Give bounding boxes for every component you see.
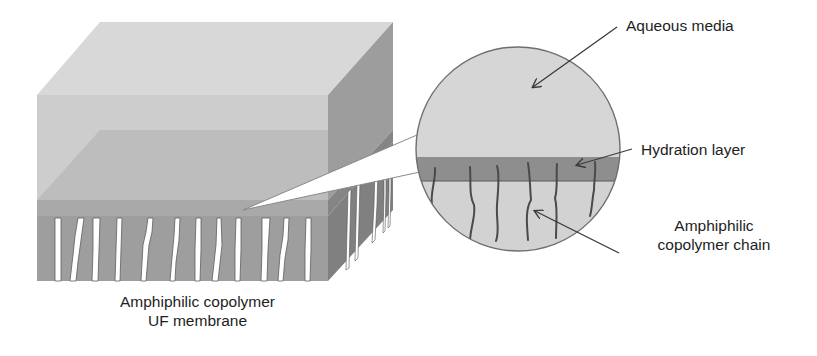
diagram-canvas: Aqueous media Hydration layer Amphiphili… [0, 0, 817, 356]
magnified-hydration-band [410, 157, 630, 181]
membrane-caption: Amphiphilic copolymer UF membrane [40, 292, 355, 330]
membrane-block [37, 22, 393, 281]
magnified-view [410, 47, 630, 261]
copolymer-chain-label: Amphiphilic copolymer chain [634, 216, 794, 254]
membrane-caption-line1: Amphiphilic copolymer [40, 292, 355, 311]
magnified-membrane-region [410, 181, 630, 261]
hydration-front-band [37, 200, 328, 216]
copolymer-chain-label-line1: Amphiphilic [634, 216, 794, 235]
hydration-layer-label: Hydration layer [641, 140, 745, 159]
aqueous-media-label: Aqueous media [626, 16, 734, 35]
membrane-caption-line2: UF membrane [40, 311, 355, 330]
copolymer-chain-label-line2: copolymer chain [634, 235, 794, 254]
